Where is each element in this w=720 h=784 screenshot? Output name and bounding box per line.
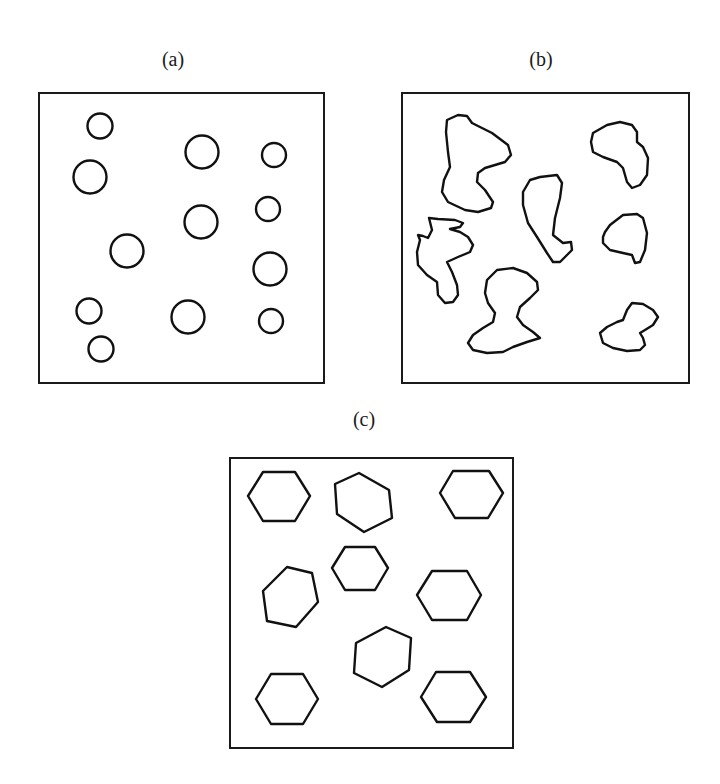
particle-shape-figure: (a) (b) (c) bbox=[0, 0, 720, 784]
panel-c-label: (c) bbox=[353, 408, 375, 431]
panel-a-label: (a) bbox=[162, 48, 184, 71]
panel-b-label: (b) bbox=[529, 48, 552, 71]
